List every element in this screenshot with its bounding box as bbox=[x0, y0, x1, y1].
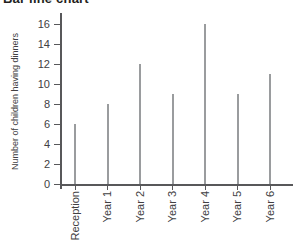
y-tick-mark bbox=[54, 164, 60, 165]
bar bbox=[172, 94, 174, 184]
bar bbox=[139, 64, 141, 184]
chart-title: Bar line chart bbox=[3, 0, 89, 6]
y-tick-mark bbox=[54, 144, 60, 145]
x-tick-mark bbox=[237, 185, 238, 190]
y-tick-mark bbox=[54, 184, 60, 185]
x-category-label: Year 3 bbox=[167, 191, 178, 222]
x-category-label: Year 5 bbox=[232, 191, 243, 222]
x-category-label: Year 1 bbox=[102, 191, 113, 222]
bar bbox=[237, 94, 239, 184]
y-tick-label: 10 bbox=[26, 78, 50, 90]
bar bbox=[74, 124, 76, 184]
x-category-label: Year 4 bbox=[200, 191, 211, 222]
x-tick-mark bbox=[205, 185, 206, 190]
x-tick-mark bbox=[270, 185, 271, 190]
x-axis-line bbox=[60, 184, 293, 186]
y-tick-mark bbox=[54, 124, 60, 125]
y-tick-label: 14 bbox=[26, 38, 50, 50]
y-axis-title: Number of children having dinners bbox=[10, 33, 20, 170]
y-tick-label: 0 bbox=[26, 178, 50, 190]
y-tick-mark bbox=[54, 44, 60, 45]
x-category-label: Year 6 bbox=[265, 191, 276, 222]
y-tick-label: 8 bbox=[26, 98, 50, 110]
x-category-label: Year 2 bbox=[135, 191, 146, 222]
x-category-label: Reception bbox=[70, 191, 81, 241]
y-tick-label: 2 bbox=[26, 158, 50, 170]
y-tick-label: 4 bbox=[26, 138, 50, 150]
bar bbox=[269, 74, 271, 184]
y-tick-label: 12 bbox=[26, 58, 50, 70]
y-tick-mark bbox=[54, 64, 60, 65]
bar bbox=[204, 24, 206, 184]
y-axis-line bbox=[60, 13, 62, 189]
x-tick-mark bbox=[140, 185, 141, 190]
y-tick-mark bbox=[54, 24, 60, 25]
x-tick-mark bbox=[172, 185, 173, 190]
y-tick-mark bbox=[54, 104, 60, 105]
bar bbox=[107, 104, 109, 184]
x-tick-mark bbox=[75, 185, 76, 190]
y-tick-mark bbox=[54, 84, 60, 85]
bar-line-chart: Bar line chart Number of children having… bbox=[0, 0, 298, 250]
y-tick-label: 16 bbox=[26, 18, 50, 30]
x-tick-mark bbox=[107, 185, 108, 190]
y-tick-label: 6 bbox=[26, 118, 50, 130]
